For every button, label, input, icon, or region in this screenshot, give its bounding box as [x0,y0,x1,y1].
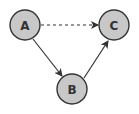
diagram-canvas: A B C [0,0,139,114]
node-c: C [99,10,129,40]
edge-a-to-b [33,39,62,76]
node-b-label: B [67,83,76,97]
edge-b-to-c [84,41,108,78]
node-a: A [10,10,40,40]
node-a-label: A [20,19,30,33]
node-b: B [57,74,87,104]
node-c-label: C [110,19,119,33]
